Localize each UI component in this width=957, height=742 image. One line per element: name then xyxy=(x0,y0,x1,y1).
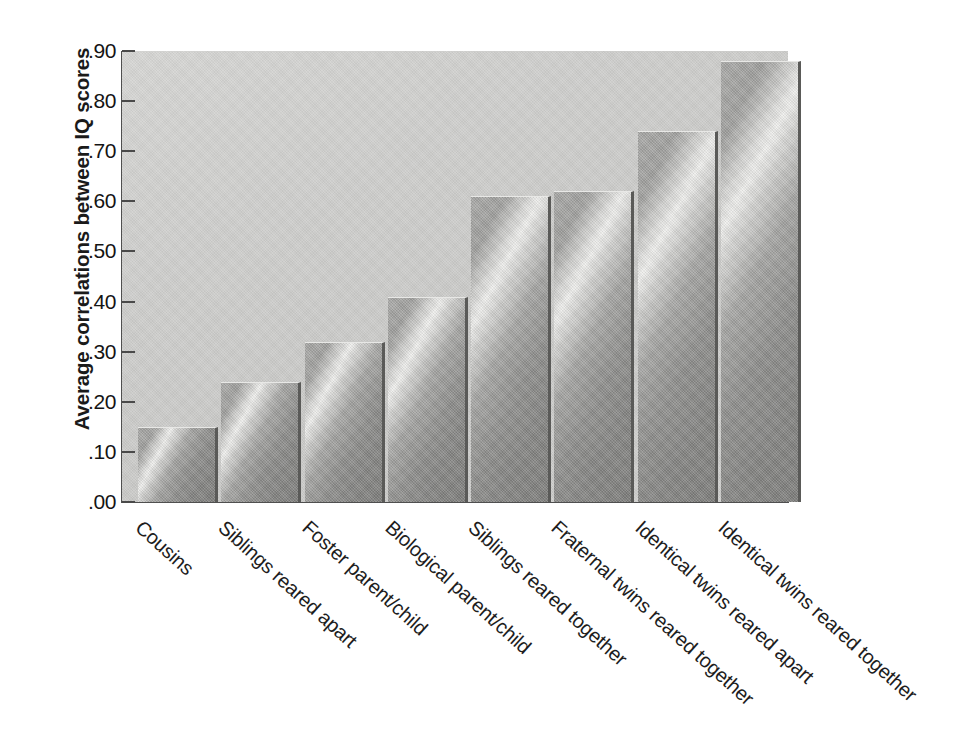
bar-texture xyxy=(721,62,798,502)
y-axis-tick-mark xyxy=(122,200,135,202)
bar-texture xyxy=(554,192,631,502)
bar-texture xyxy=(305,343,382,502)
y-axis-tick-label: .90 xyxy=(62,40,116,62)
y-axis-tick-label: .60 xyxy=(62,190,116,212)
y-axis-tick-label: .70 xyxy=(62,140,116,162)
bar-texture xyxy=(638,132,715,502)
bar-texture xyxy=(388,298,465,502)
bar-texture xyxy=(138,428,215,502)
y-axis-tick-mark xyxy=(122,100,135,102)
bar[interactable] xyxy=(554,191,634,502)
y-axis-tick-label: .40 xyxy=(62,291,116,313)
bar[interactable] xyxy=(471,196,551,502)
x-axis-tick-label[interactable]: Siblings reared together xyxy=(464,516,632,670)
y-axis-tick-mark xyxy=(122,351,135,353)
bar[interactable] xyxy=(388,297,468,502)
bar[interactable] xyxy=(721,61,801,502)
y-axis-tick-mark xyxy=(122,50,135,52)
x-axis-tick-label[interactable]: Cousins xyxy=(131,516,199,580)
bar[interactable] xyxy=(138,427,218,502)
y-axis-tick-label: .20 xyxy=(62,391,116,413)
y-axis-tick-label: .30 xyxy=(62,341,116,363)
y-axis-tick-mark xyxy=(122,250,135,252)
bar[interactable] xyxy=(305,342,385,502)
y-axis-tick-mark xyxy=(122,301,135,303)
y-axis-tick-label: .00 xyxy=(62,491,116,513)
bar[interactable] xyxy=(221,382,301,502)
bar-texture xyxy=(471,197,548,502)
bar-chart-figure: Average correlations between IQ scores .… xyxy=(0,0,957,742)
y-axis-tick-label: .50 xyxy=(62,240,116,262)
y-axis-tick-mark xyxy=(122,451,135,453)
y-axis-tick-label: .80 xyxy=(62,90,116,112)
bar[interactable] xyxy=(638,131,718,502)
y-axis-tick-label-group: .90.80.70.60.50.40.30.20.10.00 xyxy=(62,40,116,520)
y-axis-tick-mark xyxy=(122,150,135,152)
y-axis-tick-mark xyxy=(122,401,135,403)
bar-texture xyxy=(221,383,298,502)
y-axis-tick-mark xyxy=(122,501,135,503)
plot-area xyxy=(122,51,788,502)
x-axis-tick-label[interactable]: Biological parent/child xyxy=(380,516,535,659)
y-axis-tick-label: .10 xyxy=(62,441,116,463)
x-axis-tick-label[interactable]: Siblings reared apart xyxy=(214,516,362,652)
